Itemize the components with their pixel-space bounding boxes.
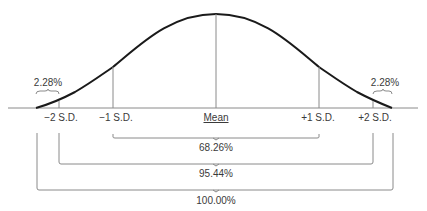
left-tail-brace <box>36 89 59 94</box>
range-95-label: 95.44% <box>199 168 233 180</box>
axis-label-minus1-sd: −1 S.D. <box>99 112 133 124</box>
range-68-label: 68.26% <box>199 142 233 154</box>
range-68-bracket <box>113 134 319 138</box>
axis-label-mean: Mean <box>203 112 228 124</box>
axis-label-plus1-sd: +1 S.D. <box>301 112 335 124</box>
axis-label-minus2-sd: −2 S.D. <box>44 112 78 124</box>
bell-curve <box>36 14 392 108</box>
left-tail-label: 2.28% <box>34 77 62 89</box>
range-100-label: 100.00% <box>196 195 235 207</box>
axis-label-plus2-sd: +2 S.D. <box>358 112 392 124</box>
right-tail-label: 2.28% <box>371 77 399 89</box>
right-tail-brace <box>373 89 392 94</box>
